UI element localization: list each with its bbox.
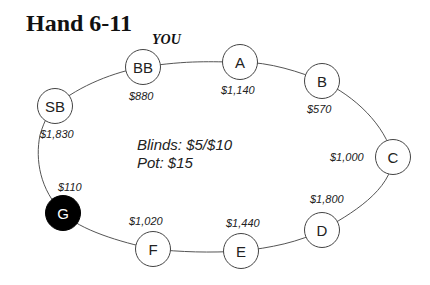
seat-label: B <box>317 73 327 90</box>
stack-b: $570 <box>307 103 331 115</box>
table-info: Blinds: $5/$10 Pot: $15 <box>137 136 232 172</box>
seat-label: E <box>236 243 246 260</box>
seat-e: E <box>223 233 259 269</box>
pot-text: Pot: $15 <box>137 154 232 172</box>
stack-a: $1,140 <box>221 84 255 96</box>
stack-sb: $1,830 <box>40 128 74 140</box>
blinds-text: Blinds: $5/$10 <box>137 136 232 154</box>
seat-bb: BB <box>125 49 161 85</box>
seat-label: G <box>57 205 69 222</box>
seat-b: B <box>304 63 340 99</box>
stack-bb: $880 <box>129 90 153 102</box>
seat-c: C <box>375 139 411 175</box>
seat-label: D <box>317 222 328 239</box>
seat-d: D <box>304 212 340 248</box>
stack-g: $110 <box>58 181 82 193</box>
seat-label: F <box>148 241 157 258</box>
stack-e: $1,440 <box>226 217 260 229</box>
seat-a: A <box>222 44 258 80</box>
seat-g: G <box>45 195 81 231</box>
seat-label: SB <box>45 98 65 115</box>
seat-label: A <box>235 54 245 71</box>
seat-sb: SB <box>37 88 73 124</box>
stack-d: $1,800 <box>310 193 344 205</box>
stack-f: $1,020 <box>129 215 163 227</box>
seat-label: C <box>388 149 399 166</box>
stack-c: $1,000 <box>330 151 364 163</box>
seat-f: F <box>135 231 171 267</box>
seat-label: BB <box>133 59 153 76</box>
